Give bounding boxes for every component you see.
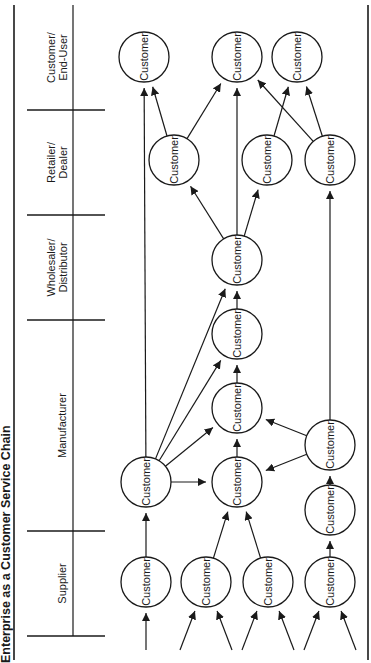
node-label: Customer — [261, 136, 273, 184]
node-label: Customer — [231, 33, 243, 81]
column-labels: SupplierManufacturerWholesaler/Distribut… — [45, 31, 69, 603]
node-label: Customer — [231, 310, 243, 358]
node-label: Customer — [140, 458, 152, 506]
node-label: Customer — [231, 384, 243, 432]
node-label: Customer — [231, 236, 243, 284]
customer-node: Customer — [212, 235, 262, 285]
flow-arrow — [341, 611, 356, 650]
node-label: Customer — [324, 486, 336, 534]
node-label: Customer — [324, 421, 336, 469]
flow-arrow — [242, 611, 257, 650]
flow-arrow — [304, 611, 319, 650]
column-label-manufacturer: Manufacturer — [56, 393, 68, 458]
customer-node: Customer — [305, 135, 355, 185]
customer-node: Customer — [243, 557, 293, 607]
flow-arrow — [165, 428, 213, 467]
customer-node: Customer — [149, 135, 199, 185]
node-label: Customer — [168, 136, 180, 184]
node-label: Customer — [231, 458, 243, 506]
diagram-title: Enterprise as a Customer Service Chain — [0, 425, 13, 663]
flow-arrow — [266, 454, 307, 470]
flow-arrow — [306, 87, 322, 137]
customer-node: Customer — [305, 557, 355, 607]
customer-node: Customer — [119, 32, 169, 82]
customer-node: Customer — [212, 309, 262, 359]
column-label-supplier: Supplier — [56, 563, 68, 604]
node-label: Customer — [262, 558, 274, 606]
flow-arrow — [153, 87, 167, 136]
flow-arrow — [191, 186, 224, 239]
flow-arrow — [187, 83, 221, 138]
customer-node: Customer — [121, 557, 171, 607]
column-label-wholesaler: Wholesaler/Distributor — [45, 238, 69, 297]
flow-arrow — [213, 512, 227, 559]
customer-node: Customer — [181, 557, 231, 607]
customer-node: Customer — [212, 383, 262, 433]
node-label: Customer — [291, 33, 303, 81]
flow-arrow — [144, 88, 146, 457]
customer-node: Customer — [121, 457, 171, 507]
flow-arrow — [279, 611, 294, 650]
node-label: Customer — [324, 136, 336, 184]
flow-arrow — [258, 80, 313, 141]
node-label: Customer — [140, 558, 152, 606]
customer-service-chain-diagram: Enterprise as a Customer Service Chain S… — [0, 0, 371, 663]
flow-arrow — [266, 419, 307, 435]
flow-arrow — [244, 190, 258, 236]
flow-arrow — [246, 512, 260, 559]
customer-node: Customer — [305, 485, 355, 535]
flow-arrow — [217, 611, 232, 650]
node-label: Customer — [138, 33, 150, 81]
node-label: Customer — [324, 558, 336, 606]
node-label: Customer — [200, 558, 212, 606]
customer-node: Customer — [272, 32, 322, 82]
flow-arrow — [155, 289, 225, 459]
customer-node: Customer — [212, 457, 262, 507]
customer-node: Customer — [242, 135, 292, 185]
customer-node: Customer — [305, 420, 355, 470]
customer-node: Customer — [212, 32, 262, 82]
column-label-retailer: Retailer/Dealer — [45, 141, 69, 183]
column-label-end-user: Customer/End-User — [45, 31, 69, 83]
flow-arrow — [180, 611, 195, 650]
column-dividers — [27, 110, 105, 636]
